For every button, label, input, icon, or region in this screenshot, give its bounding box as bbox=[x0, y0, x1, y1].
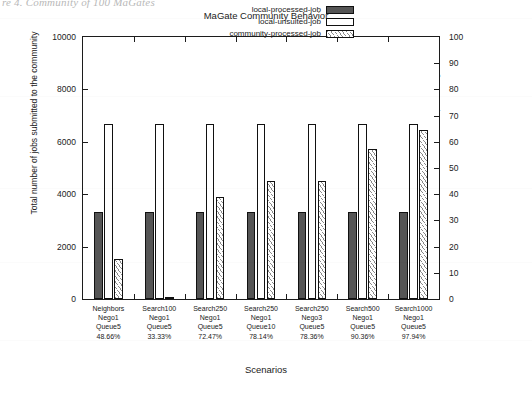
y-tick-label-left: 10000 bbox=[30, 32, 76, 42]
y-tick-mark-right bbox=[434, 142, 439, 143]
y-tick-label-right: 100 bbox=[449, 32, 489, 42]
y-tick-mark-right bbox=[434, 247, 439, 248]
bar bbox=[409, 124, 418, 299]
bar bbox=[267, 181, 276, 299]
bar bbox=[368, 149, 377, 299]
y-tick-label-right: 30 bbox=[449, 215, 489, 225]
x-tick-mark-bottom bbox=[286, 294, 287, 299]
bar bbox=[216, 197, 225, 299]
y-tick-mark-right bbox=[434, 89, 439, 90]
y-tick-mark-right bbox=[434, 168, 439, 169]
bar bbox=[206, 124, 215, 299]
x-tick-mark-bottom bbox=[134, 294, 135, 299]
y-tick-label-right: 90 bbox=[449, 58, 489, 68]
bar bbox=[145, 212, 154, 299]
bar bbox=[257, 124, 266, 299]
legend-item-swatch bbox=[326, 30, 354, 38]
bar bbox=[298, 212, 307, 299]
x-tick-mark-top bbox=[134, 37, 135, 42]
y-tick-mark-left bbox=[83, 142, 88, 143]
y-tick-label-right: 40 bbox=[449, 189, 489, 199]
chart-legend: local-processed-joblocal-unsuited-jobcom… bbox=[194, 4, 354, 40]
bar bbox=[358, 124, 367, 299]
y-tick-label-right: 70 bbox=[449, 111, 489, 121]
bar bbox=[399, 212, 408, 299]
x-category-line: Nego1 bbox=[378, 313, 450, 322]
x-category-line: Queue5 bbox=[378, 322, 450, 331]
bar bbox=[247, 212, 256, 299]
chart-screenshot: re 4. Community of 100 MaGates MaGate Co… bbox=[0, 0, 532, 398]
bar bbox=[114, 259, 123, 299]
y-tick-mark-left bbox=[83, 247, 88, 248]
legend-item-swatch bbox=[326, 6, 354, 14]
scan-noise-band bbox=[0, 18, 532, 19]
bar bbox=[196, 212, 205, 299]
x-category-label: Search1000Nego1Queue597.94% bbox=[378, 304, 450, 341]
x-tick-mark-bottom bbox=[337, 294, 338, 299]
y-tick-label-right: 20 bbox=[449, 242, 489, 252]
scan-noise-band bbox=[0, 340, 532, 341]
y-tick-label-left: 8000 bbox=[30, 84, 76, 94]
x-tick-mark-bottom bbox=[388, 294, 389, 299]
bar bbox=[419, 130, 428, 300]
x-tick-mark-top bbox=[388, 37, 389, 42]
y-tick-mark-right bbox=[434, 116, 439, 117]
y-tick-label-right: 80 bbox=[449, 84, 489, 94]
bar bbox=[348, 212, 357, 299]
y-tick-label-right: 50 bbox=[449, 163, 489, 173]
bar bbox=[94, 212, 103, 299]
y-tick-label-left: 0 bbox=[30, 294, 76, 304]
y-tick-label-right: 10 bbox=[449, 268, 489, 278]
bar bbox=[308, 124, 317, 299]
y-tick-mark-left bbox=[83, 194, 88, 195]
x-axis-title: Scenarios bbox=[0, 364, 532, 375]
bar bbox=[165, 297, 174, 299]
x-tick-mark-bottom bbox=[185, 294, 186, 299]
y-tick-label-right: 60 bbox=[449, 137, 489, 147]
y-tick-mark-right bbox=[434, 273, 439, 274]
y-tick-label-left: 4000 bbox=[30, 189, 76, 199]
legend-item-label: community-processed-job bbox=[229, 29, 321, 38]
bar bbox=[104, 124, 113, 299]
legend-item: local-processed-job bbox=[194, 4, 354, 15]
y-tick-mark-right bbox=[434, 63, 439, 64]
plot-area bbox=[82, 36, 440, 300]
legend-item-label: local-processed-job bbox=[252, 5, 321, 14]
y-tick-mark-right bbox=[434, 220, 439, 221]
y-tick-label-left: 6000 bbox=[30, 137, 76, 147]
y-tick-label-right: 0 bbox=[449, 294, 489, 304]
y-tick-mark-right bbox=[434, 194, 439, 195]
bar bbox=[155, 124, 164, 299]
bar bbox=[318, 181, 327, 299]
y-tick-label-left: 2000 bbox=[30, 242, 76, 252]
scan-noise-band bbox=[0, 188, 532, 189]
legend-item: community-processed-job bbox=[194, 28, 354, 39]
plot-inner bbox=[83, 37, 439, 299]
scan-noise-band bbox=[0, 96, 532, 97]
x-tick-mark-top bbox=[185, 37, 186, 42]
x-category-line: Search1000 bbox=[378, 304, 450, 313]
scan-noise-band bbox=[0, 262, 532, 263]
x-tick-mark-bottom bbox=[236, 294, 237, 299]
y-tick-mark-left bbox=[83, 89, 88, 90]
